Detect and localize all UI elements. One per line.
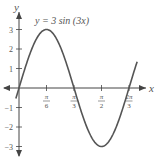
y-tick-label: 3 <box>9 26 13 35</box>
y-tick-label: −2 <box>4 123 13 132</box>
x-tick-denominator: 3 <box>127 102 131 110</box>
x-tick-numerator: π <box>45 93 49 101</box>
y-tick-label: −3 <box>4 143 13 152</box>
y-axis-arrow-up <box>16 12 22 19</box>
x-axis-label: x <box>148 82 154 94</box>
x-tick-denominator: 2 <box>100 102 104 110</box>
y-tick-label: −1 <box>4 104 13 113</box>
x-axis-arrow-right <box>139 85 146 91</box>
sine-plot: 321−1−2−3π6π3π22π3 y = 3 sin (3x) y x <box>0 0 160 160</box>
y-tick-label: 2 <box>9 45 13 54</box>
y-tick-label: 1 <box>9 65 13 74</box>
y-axis-label: y <box>13 1 19 13</box>
x-tick-numerator: π <box>100 93 104 101</box>
x-tick-denominator: 3 <box>72 102 76 110</box>
y-axis-arrow-down <box>16 150 22 157</box>
x-tick-denominator: 6 <box>45 102 49 110</box>
equation-label: y = 3 sin (3x) <box>34 15 90 27</box>
x-axis-arrow-left <box>3 85 10 91</box>
axes: 321−1−2−3π6π3π22π3 <box>3 12 146 157</box>
